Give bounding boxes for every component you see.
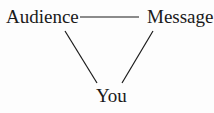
node-audience: Audience bbox=[6, 7, 79, 26]
node-you: You bbox=[96, 86, 127, 105]
edge-message-you bbox=[122, 31, 153, 83]
edge-audience-you bbox=[65, 31, 97, 83]
node-message: Message bbox=[147, 7, 213, 26]
